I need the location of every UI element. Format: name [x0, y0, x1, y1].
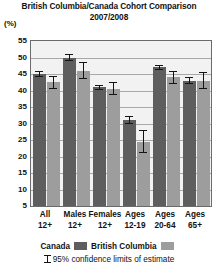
- x-axis-tick-label-line1: Males: [64, 210, 87, 219]
- x-axis-tick-label-line1: Ages: [185, 210, 205, 219]
- error-bar: [185, 77, 193, 84]
- bar-canada-ages-12-19: [123, 120, 136, 206]
- bar-british-columbia-ages-20-64: [167, 77, 180, 206]
- x-axis-tick-label-line2: 65+: [176, 220, 214, 231]
- y-axis-tick-label: 10: [6, 186, 27, 194]
- error-bar: [95, 85, 103, 90]
- y-axis-tick-label: 40: [6, 87, 27, 95]
- legend-label-british-columbia: British Columbia: [91, 242, 157, 251]
- x-axis-tick-label-line1: Ages: [155, 210, 175, 219]
- chart-title: British Columbia/Canada Cohort Compariso…: [0, 1, 218, 12]
- legend-label-canada: Canada: [40, 242, 70, 251]
- error-bar: [155, 65, 163, 70]
- y-axis-tick-label: 20: [6, 153, 27, 161]
- plot-area: [30, 40, 212, 207]
- x-axis-tick-label-line1: All: [40, 210, 50, 219]
- y-axis-unit-label: (%): [4, 19, 16, 28]
- chart-legend: CanadaBritish Columbia: [0, 241, 218, 252]
- error-bar: [169, 71, 177, 84]
- y-axis-tick-label: 45: [6, 70, 27, 78]
- chart-title-block: British Columbia/Canada Cohort Compariso…: [0, 1, 218, 22]
- error-bar: [109, 82, 117, 95]
- confidence-interval-note-text: 95% confidence limits of estimate: [53, 255, 175, 264]
- confidence-interval-note: 95% confidence limits of estimate: [0, 254, 218, 265]
- bar-british-columbia-males-12-: [77, 71, 90, 206]
- y-axis-tick-label: 25: [6, 136, 27, 144]
- gridline: [31, 74, 211, 75]
- bar-british-columbia-females-12-: [107, 89, 120, 206]
- legend-swatch-british-columbia: [161, 242, 174, 250]
- x-axis-tick-label-line1: Ages: [125, 210, 145, 219]
- bar-canada-all-12-: [33, 74, 46, 206]
- bar-canada-females-12-: [93, 87, 106, 206]
- error-bar: [199, 72, 207, 89]
- error-bar: [79, 62, 87, 79]
- bar-canada-ages-20-64: [153, 67, 166, 206]
- y-axis-tick-label: 55: [6, 37, 27, 45]
- x-axis-tick-labels: All12+Males12+Females12+Ages12-19Ages20-…: [30, 209, 212, 237]
- bar-british-columbia-all-12-: [47, 82, 60, 206]
- error-bar: [35, 71, 43, 76]
- error-bar: [125, 116, 133, 124]
- y-axis-tick-label: 50: [6, 54, 27, 62]
- x-axis-tick-label: Ages65+: [176, 209, 214, 231]
- error-bar: [49, 76, 57, 89]
- chart-subtitle: 2007/2008: [0, 12, 218, 23]
- error-bar: [139, 130, 147, 153]
- y-axis-tick-label: 15: [6, 169, 27, 177]
- error-bar-icon: [44, 255, 51, 263]
- y-axis-tick-label: 5: [6, 202, 27, 210]
- gridline: [31, 58, 211, 59]
- bar-canada-ages-65-: [183, 81, 196, 206]
- y-axis-tick-label: 35: [6, 103, 27, 111]
- legend-swatch-canada: [74, 242, 87, 250]
- chart-container: British Columbia/Canada Cohort Compariso…: [0, 0, 218, 269]
- bar-british-columbia-ages-65-: [197, 81, 210, 206]
- bar-canada-males-12-: [63, 58, 76, 207]
- y-axis-tick-label: 30: [6, 120, 27, 128]
- error-bar: [65, 54, 73, 61]
